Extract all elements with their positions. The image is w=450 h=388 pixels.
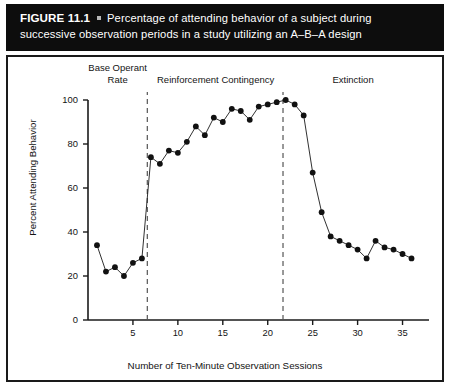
figure-caption-line-1: FIGURE 11.1Percentage of attending behav… [20,10,432,27]
figure-caption-text-1: Percentage of attending behavior of a su… [107,12,372,24]
y-axis-title: Percent Attending Behavior [27,108,38,248]
y-tick-label-80: 80 [48,138,78,149]
figure-number: FIGURE 11.1 [20,11,90,24]
figure-caption-line-2: successive observation periods in a stud… [20,27,432,43]
bullet-separator-icon [97,16,101,20]
y-tick-label-0: 0 [48,314,78,325]
x-tick-label-35: 35 [388,327,418,338]
phase-label-baseline-line1: Base Operant [48,62,188,73]
x-axis-title: Number of Ten-Minute Observation Session… [0,360,450,371]
figure-container: FIGURE 11.1Percentage of attending behav… [0,0,450,388]
phase-label-reinforcement: Reinforcement Contingency [146,74,286,85]
x-tick-label-10: 10 [163,327,193,338]
figure-banner: FIGURE 11.1Percentage of attending behav… [6,4,444,51]
y-tick-label-60: 60 [48,182,78,193]
phase-label-extinction: Extinction [283,74,423,85]
x-tick-label-25: 25 [298,327,328,338]
x-tick-label-30: 30 [343,327,373,338]
x-tick-label-20: 20 [253,327,283,338]
y-tick-label-40: 40 [48,226,78,237]
x-tick-label-15: 15 [208,327,238,338]
y-tick-label-20: 20 [48,270,78,281]
y-tick-label-100: 100 [48,94,78,105]
x-tick-label-5: 5 [118,327,148,338]
